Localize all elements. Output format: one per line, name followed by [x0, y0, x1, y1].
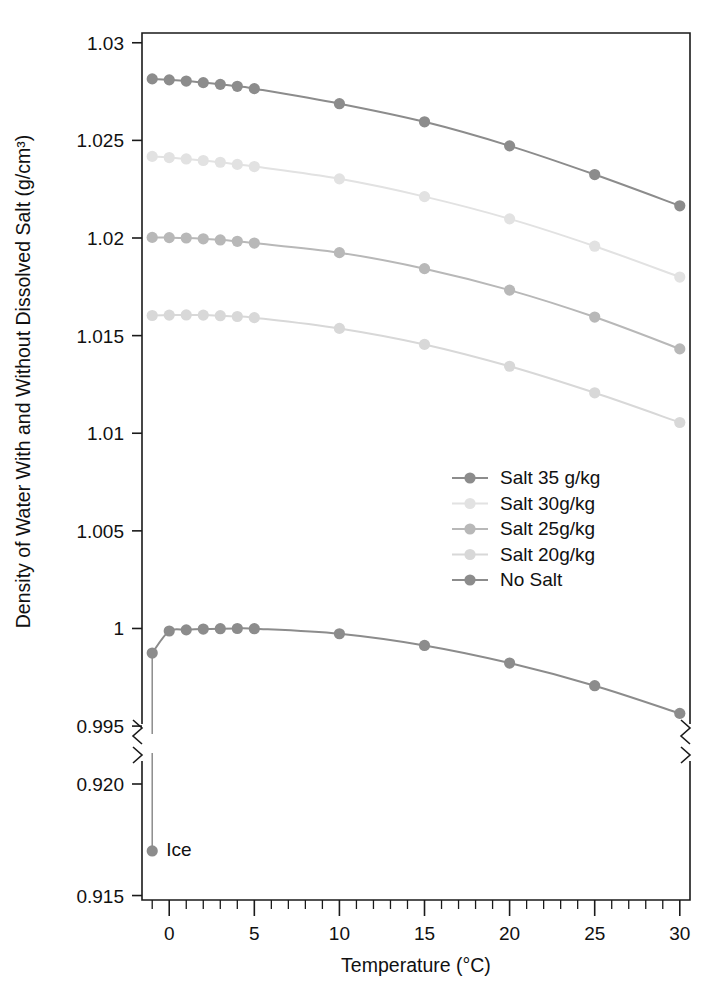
legend-label: Salt 20g/kg	[500, 544, 595, 565]
y-tick-label-lower: 0.920	[76, 774, 124, 795]
data-point	[164, 310, 175, 321]
axis-break-upper-right	[681, 720, 690, 744]
x-tick-label: 5	[249, 923, 260, 944]
legend-swatch-marker	[464, 523, 475, 534]
data-point	[147, 232, 158, 243]
x-tick-label: 30	[669, 923, 690, 944]
x-tick-label: 25	[584, 923, 605, 944]
data-point	[504, 657, 515, 668]
series-no-salt	[147, 623, 686, 719]
series-line	[152, 237, 680, 348]
data-point	[198, 623, 209, 634]
y-tick-label-upper: 1.02	[87, 228, 124, 249]
data-point	[232, 236, 243, 247]
data-point	[334, 247, 345, 258]
data-point	[589, 241, 600, 252]
data-point	[674, 708, 685, 719]
series-salt-20g-kg	[147, 309, 686, 428]
data-point	[232, 159, 243, 170]
legend-layer[interactable]: Salt 35 g/kgSalt 30g/kgSalt 25g/kgSalt 2…	[452, 467, 600, 590]
data-point	[589, 169, 600, 180]
x-tick-label: 10	[329, 923, 350, 944]
data-point	[589, 311, 600, 322]
data-point	[164, 152, 175, 163]
y-tick-label-upper: 1	[113, 618, 124, 639]
data-point	[181, 75, 192, 86]
data-point	[504, 213, 515, 224]
data-point	[249, 312, 260, 323]
legend-item[interactable]: Salt 25g/kg	[452, 518, 595, 539]
y-tick-label-upper: 1.01	[87, 423, 124, 444]
y-tick-label-upper: 1.015	[76, 326, 124, 347]
data-point	[249, 83, 260, 94]
annotation-layer: Ice	[147, 653, 192, 860]
data-point	[419, 640, 430, 651]
data-point	[181, 153, 192, 164]
legend-label: Salt 25g/kg	[500, 518, 595, 539]
data-point	[334, 628, 345, 639]
data-point	[198, 233, 209, 244]
series-salt-30g-kg	[147, 151, 686, 283]
data-point	[215, 157, 226, 168]
legend-swatch-marker	[464, 472, 475, 483]
series-salt-35-g-kg	[147, 73, 686, 211]
data-point	[249, 237, 260, 248]
axis-break-upper-left	[133, 720, 142, 744]
y-axis-title: Density of Water With and Without Dissol…	[12, 135, 34, 628]
data-point	[674, 417, 685, 428]
data-point	[674, 271, 685, 282]
data-point	[215, 79, 226, 90]
lower-panel-frame	[142, 761, 690, 900]
data-point	[181, 232, 192, 243]
ice-label: Ice	[166, 839, 191, 860]
data-point	[164, 232, 175, 243]
y-tick-label-upper: 1.005	[76, 521, 124, 542]
data-point	[249, 623, 260, 634]
data-point	[674, 200, 685, 211]
data-point	[589, 680, 600, 691]
legend-label: No Salt	[500, 569, 563, 590]
data-point	[249, 161, 260, 172]
series-line	[152, 79, 680, 206]
x-tick-label: 20	[499, 923, 520, 944]
data-point	[215, 234, 226, 245]
data-point	[334, 323, 345, 334]
data-point	[215, 310, 226, 321]
data-point	[334, 98, 345, 109]
legend-item[interactable]: No Salt	[452, 569, 563, 590]
data-point	[589, 387, 600, 398]
data-point	[419, 191, 430, 202]
series-line	[152, 315, 680, 423]
data-point	[147, 73, 158, 84]
data-point	[181, 309, 192, 320]
y-tick-label-upper: 1.03	[87, 33, 124, 54]
legend-swatch-marker	[464, 574, 475, 585]
data-point	[419, 339, 430, 350]
legend-swatch-marker	[464, 498, 475, 509]
legend-label: Salt 30g/kg	[500, 493, 595, 514]
data-point	[147, 310, 158, 321]
legend-item[interactable]: Salt 30g/kg	[452, 493, 595, 514]
legend-swatch-marker	[464, 549, 475, 560]
legend-item[interactable]: Salt 20g/kg	[452, 544, 595, 565]
series-layer	[147, 73, 686, 719]
data-point	[232, 311, 243, 322]
data-point	[181, 624, 192, 635]
ice-data-point	[147, 845, 158, 856]
legend-item[interactable]: Salt 35 g/kg	[452, 467, 600, 488]
legend-label: Salt 35 g/kg	[500, 467, 600, 488]
data-point	[504, 361, 515, 372]
data-point	[419, 116, 430, 127]
data-point	[198, 77, 209, 88]
y-tick-label-lower: 0.915	[76, 886, 124, 907]
data-point	[232, 81, 243, 92]
data-point	[334, 173, 345, 184]
density-temperature-chart: Ice Salt 35 g/kgSalt 30g/kgSalt 25g/kgSa…	[0, 0, 720, 1000]
axis-break-lower-right	[681, 747, 690, 763]
x-tick-label: 15	[414, 923, 435, 944]
data-point	[215, 623, 226, 634]
data-point	[164, 74, 175, 85]
axis-break-lower-left	[133, 747, 142, 763]
data-point	[198, 310, 209, 321]
data-point	[232, 623, 243, 634]
